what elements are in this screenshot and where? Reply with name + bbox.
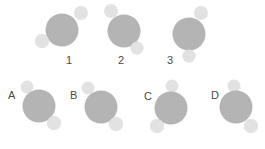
top-atom bbox=[166, 80, 179, 93]
molecule-b[interactable]: B bbox=[70, 82, 123, 132]
lower-right-atom-front bbox=[131, 42, 144, 55]
molecule-label-2: 2 bbox=[118, 54, 124, 66]
bottom-atom-front bbox=[183, 50, 196, 63]
lower-right-atom-front bbox=[109, 117, 123, 131]
top-row-molecules: 123 bbox=[35, 4, 208, 66]
bottom-row-molecules: ABCD bbox=[8, 80, 258, 134]
molecule-label-c: C bbox=[144, 90, 152, 102]
figure-canvas: 123ABCD bbox=[0, 0, 265, 149]
molecule-1[interactable]: 1 bbox=[35, 6, 88, 66]
molecule-label-d: D bbox=[211, 89, 219, 101]
molecule-label-1: 1 bbox=[66, 54, 72, 66]
lower-right-atom-front bbox=[47, 116, 61, 130]
lower-left-atom-front bbox=[150, 119, 164, 133]
top-atom bbox=[228, 80, 241, 93]
molecule-d[interactable]: D bbox=[211, 80, 258, 134]
upper-left-atom bbox=[104, 4, 118, 18]
molecule-label-a: A bbox=[8, 89, 16, 101]
molecule-3[interactable]: 3 bbox=[167, 6, 208, 66]
lower-left-atom-front bbox=[35, 34, 49, 48]
upper-left-atom bbox=[82, 82, 95, 95]
molecule-a[interactable]: A bbox=[8, 81, 61, 131]
central-atom bbox=[46, 14, 79, 47]
upper-right-atom bbox=[194, 6, 208, 20]
molecule-c[interactable]: C bbox=[144, 80, 188, 134]
central-atom bbox=[173, 18, 206, 51]
upper-right-atom bbox=[74, 6, 88, 20]
molecule-label-b: B bbox=[70, 89, 77, 101]
molecule-label-3: 3 bbox=[167, 54, 173, 66]
central-atom bbox=[220, 91, 253, 124]
molecule-2[interactable]: 2 bbox=[104, 4, 144, 66]
lower-right-atom-front bbox=[244, 119, 258, 133]
molecule-orientation-figure: 123ABCD bbox=[0, 0, 265, 149]
